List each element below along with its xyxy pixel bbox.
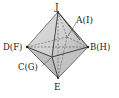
label-bottom: E	[54, 82, 61, 92]
octahedron-diagram: J A(I) D(F) B(H) C(G) E	[0, 0, 119, 98]
label-top: J	[54, 2, 59, 12]
label-right: B(H)	[90, 42, 110, 52]
label-back: A(I)	[75, 15, 93, 25]
vertex-dot-bottom	[57, 77, 59, 79]
vertex-dot-right	[87, 46, 89, 48]
label-front: C(G)	[18, 62, 38, 72]
label-left: D(F)	[3, 42, 22, 52]
vertex-dot-left	[26, 46, 28, 48]
